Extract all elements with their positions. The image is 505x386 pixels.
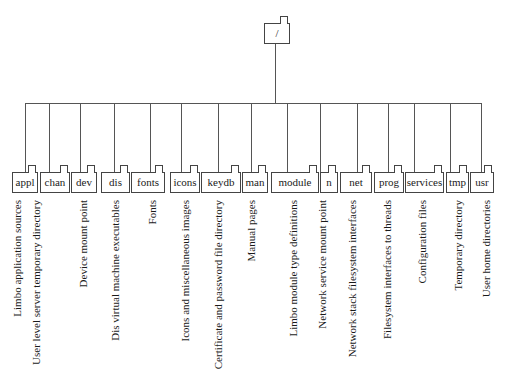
folder-label: keydb [208,176,235,188]
folder-label: services [407,176,442,188]
folder-description: Certificate and password file directory [211,200,225,369]
folder-label: chan [45,176,66,188]
folder-tab-icon [258,165,266,173]
description-icons: Icons and miscellaneous images [178,200,192,386]
folder-description: Limbo module type definitions [286,200,300,337]
description-man: Manual pages [244,200,258,386]
description-module: Limbo module type definitions [286,200,300,386]
child-connector-line [287,103,288,172]
folder-label: man [246,176,265,188]
folder-tab-icon [362,165,370,173]
folder-box-module: module [271,172,319,193]
folder-box-icons: icons [170,172,200,193]
root-folder-label: / [275,27,278,39]
child-connector-line [251,103,252,172]
child-connector-line [320,103,321,172]
folder-tab-icon [155,165,163,173]
description-dev: Device mount point [76,200,90,386]
description-net: Network stack filesystem interfaces [345,200,359,386]
folder-box-dis: dis [101,172,130,193]
folder-box-man: man [242,172,268,193]
root-connector-line [275,44,276,103]
folder-label: tmp [449,176,466,188]
folder-tab-icon [484,165,492,173]
folder-label: n [326,176,332,188]
folder-tab-icon [28,165,36,173]
child-connector-line [25,103,26,172]
folder-box-usr: usr [470,172,494,193]
description-prog: Filesystem interfaces to threads [380,200,394,386]
folder-label: appl [16,176,35,188]
child-connector-line [388,103,389,172]
folder-box-net: net [340,172,372,193]
folder-label: dis [109,176,122,188]
folder-description: Configuration files [415,200,429,283]
folder-description: Dis virtual machine executables [108,200,122,341]
description-keydb: Certificate and password file directory [211,200,225,386]
folder-description: User level server temporary directory [29,200,43,365]
description-tmp: Temporary directory [451,200,465,386]
folder-box-dev: dev [71,172,97,193]
folder-label: module [279,176,312,188]
folder-box-prog: prog [374,172,404,193]
child-connector-line [450,103,451,172]
folder-description: Device mount point [76,200,90,287]
child-connector-line [218,103,219,172]
child-connector-line [481,103,482,172]
folder-box-appl: appl [12,172,38,193]
description-fonts: Fonts [145,200,159,386]
folder-tab-icon [87,165,95,173]
description-appl: Limbo application sources [10,200,24,386]
folder-tab-icon [459,165,467,173]
description-n: Network service mount point [315,200,329,386]
child-connector-line [80,103,81,172]
description-usr: User home directories [479,200,493,386]
description-services: Configuration files [415,200,429,386]
folder-box-services: services [405,172,444,193]
folder-tab-icon [190,165,198,173]
folder-tab-icon [309,165,317,173]
folder-description: Icons and miscellaneous images [178,200,192,341]
folder-description: Temporary directory [451,200,465,291]
folder-box-chan: chan [40,172,70,193]
folder-box-tmp: tmp [446,172,469,193]
folder-tab-icon [328,165,336,173]
folder-description: User home directories [479,200,493,297]
child-connector-line [181,103,182,172]
description-dis: Dis virtual machine executables [108,200,122,386]
root-folder-box: / [264,23,290,44]
folder-description: Manual pages [244,200,258,261]
folder-label: dev [76,176,92,188]
folder-box-fonts: fonts [131,172,165,193]
folder-tab-icon [120,165,128,173]
folder-description: Network service mount point [315,200,329,329]
folder-label: fonts [137,176,159,188]
folder-tab-icon [280,16,288,24]
folder-label: icons [173,176,196,188]
folder-description: Fonts [145,200,159,224]
folder-box-keydb: keydb [201,172,241,193]
folder-box-n: n [320,172,338,193]
folder-label: prog [379,176,399,188]
child-connector-line [114,103,115,172]
folder-label: usr [475,176,488,188]
folder-tab-icon [231,165,239,173]
folder-tab-icon [394,165,402,173]
folder-label: net [349,176,362,188]
child-connector-line [49,103,50,172]
folder-description: Network stack filesystem interfaces [345,200,359,357]
folder-description: Filesystem interfaces to threads [380,200,394,339]
child-connector-line [150,103,151,172]
child-connector-line [357,103,358,172]
description-chan: User level server temporary directory [29,200,43,386]
folder-description: Limbo application sources [10,200,24,317]
folder-tab-icon [60,165,68,173]
child-connector-line [414,103,415,172]
folder-tab-icon [434,165,442,173]
